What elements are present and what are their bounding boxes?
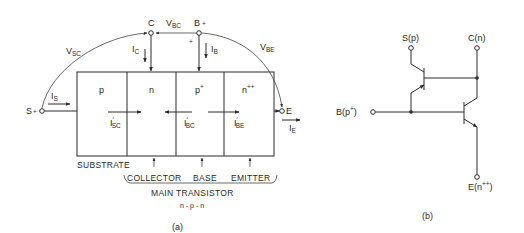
substrate-node-icon [40,109,45,114]
base-node-icon [197,31,202,36]
b-terminal-label: B(p+) [336,105,357,117]
substrate-terminal: S+ [26,106,77,116]
base-junction-dot [409,110,413,114]
substrate-caption: SUBSTRATE [77,160,130,170]
vbc-label: VBC [166,18,181,29]
vbe-arc [202,33,282,107]
collector-caption: COLLECTOR [127,173,182,183]
b-node-icon [371,110,376,115]
emitter-caption: EMITTER [231,173,270,183]
region-emitter-doping: n++ [242,83,255,95]
transistor-type-caption: n - p - n [180,202,204,210]
vsc-label: VSC [66,46,81,57]
base-terminal: B+ + [189,18,206,71]
bipolar-transistor-figure: p n p+ n++ C - B+ + S+ E [0,0,524,233]
main-transistor-caption: MAIN TRANSISTOR [151,188,234,198]
s-terminal-label: S(p) [402,33,419,43]
region-substrate-doping: p [99,85,104,95]
ib-label: IB [211,44,218,55]
base-plus-mark: + [189,38,193,45]
collector-node-icon [149,31,154,36]
substrate-label: S+ [26,106,37,116]
ie-label: IE [289,123,297,134]
emitter-label: E [286,106,292,116]
c-terminal-label: C(n) [468,33,486,43]
emitter-node-icon [280,109,285,114]
ibe-prime-label: I′BE [234,116,245,129]
figure-a-caption: (a) [172,222,183,232]
e-terminal-label: E(n++) [468,180,493,192]
ic-label: IC [132,44,140,55]
emitter-terminal: E [274,106,292,116]
parasitic-pnp-transistor-icon [411,51,477,113]
figure-b: S(p) C(n) B(p+) E(n++) (b) [336,33,493,221]
is-label: IS [51,91,59,102]
ibc-prime-label: I′BC [184,116,195,129]
base-caption: BASE [193,173,217,183]
main-npn-transistor-icon [376,51,478,175]
c-node-icon [475,46,480,51]
s-node-icon [409,46,414,51]
figure-b-caption: (b) [422,211,433,221]
region-collector-doping: n [149,85,154,95]
collector-junction-dot [475,76,479,80]
isc-prime-label: I′SC [110,116,121,129]
e-node-icon [475,175,480,180]
collector-terminal: C - [143,18,155,71]
region-base-doping: p+ [195,83,204,95]
vbe-label: VBE [260,42,275,53]
base-label: B+ [194,18,206,28]
collector-label: C [148,18,155,28]
figure-a: p n p+ n++ C - B+ + S+ E [26,18,300,232]
